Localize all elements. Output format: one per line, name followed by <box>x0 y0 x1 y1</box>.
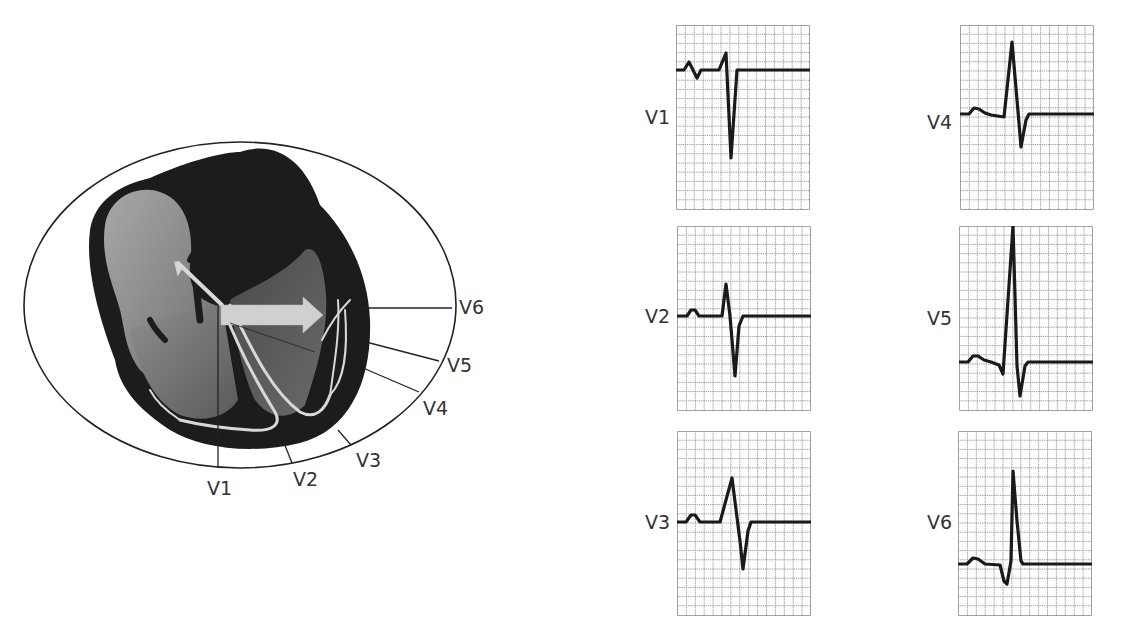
ecg-strip-v2 <box>677 226 811 411</box>
ecg-label-v6: V6 <box>927 513 952 532</box>
ecg-strip-v6 <box>958 431 1092 616</box>
ecg-strip-v1 <box>676 25 810 210</box>
lead-line-v3 <box>338 430 351 445</box>
ecg-strip-v3 <box>677 431 811 616</box>
precordial-lead-figure: V1 V2 V3 V4 V5 V6 V1 V2 V3 <box>0 0 1130 642</box>
ecg-label-v2: V2 <box>645 307 670 326</box>
heart-lead-label-v4: V4 <box>423 399 448 418</box>
heart-lead-label-v6: V6 <box>459 298 484 317</box>
heart-lead-label-v2: V2 <box>293 470 318 489</box>
ecg-strip-v4 <box>960 25 1094 210</box>
ecg-label-v4: V4 <box>927 113 952 132</box>
lead-line-v4 <box>363 368 419 392</box>
ecg-trace-v3 <box>677 478 811 569</box>
heart-diagram <box>0 0 500 520</box>
heart-lead-label-v1: V1 <box>207 479 232 498</box>
ecg-trace-v5 <box>959 226 1093 396</box>
ecg-trace-v1 <box>676 53 810 158</box>
heart-lead-label-v3: V3 <box>356 451 381 470</box>
heart-lead-label-v5: V5 <box>447 356 472 375</box>
ecg-label-v5: V5 <box>927 309 952 328</box>
ecg-trace-v2 <box>677 284 811 376</box>
lead-line-v2 <box>284 443 292 463</box>
ecg-strip-v5 <box>959 226 1093 411</box>
lead-line-v5 <box>366 342 439 361</box>
ecg-trace-v6 <box>958 471 1092 584</box>
ecg-label-v3: V3 <box>645 513 670 532</box>
ecg-trace-v4 <box>960 42 1094 147</box>
ecg-label-v1: V1 <box>645 108 670 127</box>
